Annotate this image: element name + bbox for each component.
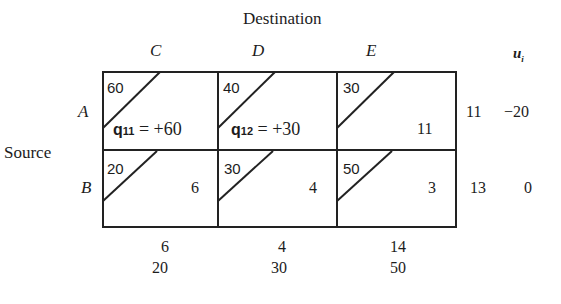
q11-var: q bbox=[113, 121, 123, 138]
col-e-v: 50 bbox=[390, 259, 406, 277]
q12-annotation: q12 = +30 bbox=[231, 119, 300, 140]
row-b-total: 13 bbox=[470, 179, 486, 197]
q12-var: q bbox=[231, 121, 241, 138]
row-b-u: 0 bbox=[524, 179, 532, 197]
cost-a-d: 40 bbox=[223, 79, 240, 96]
q11-annotation: q11 = +60 bbox=[113, 119, 182, 140]
q11-expr: = +60 bbox=[139, 119, 182, 139]
row-a-u: −20 bbox=[504, 103, 529, 121]
value-b-d: 4 bbox=[309, 179, 317, 197]
q12-expr: = +30 bbox=[257, 119, 300, 139]
cost-b-c: 20 bbox=[107, 160, 124, 177]
col-c-v: 20 bbox=[152, 259, 168, 277]
cost-b-d: 30 bbox=[224, 160, 241, 177]
cost-b-e: 50 bbox=[343, 160, 360, 177]
col-d-v: 30 bbox=[271, 259, 287, 277]
col-c-total: 6 bbox=[161, 238, 169, 256]
value-b-c: 6 bbox=[191, 179, 199, 197]
row-a-total: 11 bbox=[466, 103, 481, 121]
cost-a-e: 30 bbox=[343, 79, 360, 96]
col-d-total: 4 bbox=[278, 238, 286, 256]
value-a-e: 11 bbox=[417, 120, 432, 138]
q11-sub: 11 bbox=[123, 125, 135, 137]
q12-sub: 12 bbox=[241, 125, 253, 137]
value-b-e: 3 bbox=[428, 179, 436, 197]
col-e-total: 14 bbox=[390, 238, 406, 256]
cost-a-c: 60 bbox=[107, 79, 124, 96]
